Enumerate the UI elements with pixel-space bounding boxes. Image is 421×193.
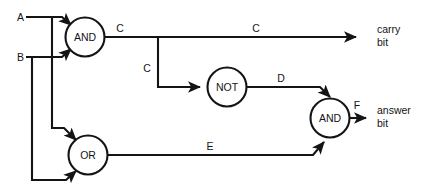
input-label-a: A (17, 11, 24, 23)
logic-circuit-diagram: AND NOT OR AND A B C C C D E F carry bit (0, 0, 421, 193)
signal-label-c-branch: C (143, 62, 151, 74)
gate-and2-label: AND (319, 112, 342, 124)
gate-not1-label: NOT (216, 81, 239, 93)
wire-or1-to-and2 (107, 142, 324, 155)
gate-not1[interactable]: NOT (208, 68, 247, 107)
wire-input-b-to-and1 (26, 49, 71, 57)
gate-or1[interactable]: OR (69, 136, 108, 175)
input-label-b: B (17, 51, 24, 63)
wire-not-to-and2 (246, 87, 330, 97)
wire-input-a-to-and1 (26, 17, 71, 25)
gate-and2[interactable]: AND (311, 99, 350, 138)
signal-label-f: F (354, 99, 360, 111)
output-answer-bit: answer bit (377, 104, 411, 129)
wire-c-branch-to-not (158, 37, 200, 87)
circuit-canvas: AND NOT OR AND A B C C C D E F carry bit (0, 0, 421, 193)
output-carry-line1: carry (377, 23, 401, 35)
output-answer-line1: answer (377, 104, 411, 116)
output-answer-line2: bit (377, 117, 388, 129)
output-carry-bit: carry bit (377, 23, 401, 48)
signal-label-c-top: C (116, 22, 124, 34)
gate-and1-label: AND (74, 31, 97, 43)
signal-label-d: D (277, 72, 285, 84)
signal-label-c-carry: C (252, 22, 260, 34)
gate-and1[interactable]: AND (66, 18, 105, 57)
signal-label-e: E (206, 140, 213, 152)
gate-or1-label: OR (80, 149, 96, 161)
output-carry-line2: bit (377, 36, 388, 48)
